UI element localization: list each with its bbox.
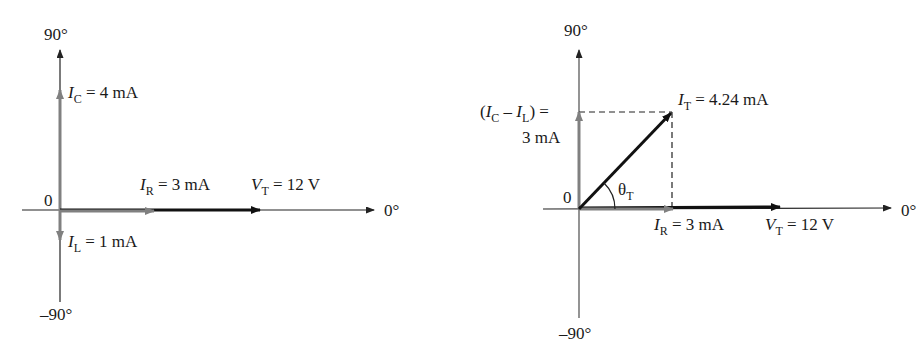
left-origin-label: 0 [44,191,53,210]
right-phasor-diagram: 90° –90° 0° 0 (IC – IL) = 3 mA IT = 4.24… [480,21,916,343]
right-reactive-value: 3 mA [522,128,561,147]
right-theta-arc [604,183,615,209]
right-minus90-label: –90° [558,324,591,343]
right-90-label: 90° [564,21,588,40]
left-vt-label: VT = 12 V [251,175,321,198]
right-ir-label: IR = 3 mA [653,215,725,238]
right-0deg-label: 0° [901,201,916,220]
phasor-diagrams: 90° –90° 0° 0 IC = 4 mA IL = 1 mA IR = 3… [0,0,921,349]
left-ir-label: IR = 3 mA [139,175,211,198]
left-il-label: IL = 1 mA [67,232,138,255]
left-ic-label: IC = 4 mA [67,83,139,106]
left-0deg-label: 0° [384,201,399,220]
right-it-label: IT = 4.24 mA [677,90,769,113]
left-minus90-label: –90° [39,305,72,324]
right-origin-label: 0 [563,188,572,207]
left-90-label: 90° [44,25,68,44]
left-phasor-diagram: 90° –90° 0° 0 IC = 4 mA IL = 1 mA IR = 3… [22,25,399,324]
right-theta-label: θT [618,180,634,203]
right-reactive-label: (IC – IL) = [480,102,549,125]
right-vt-label: VT = 12 V [765,215,835,238]
